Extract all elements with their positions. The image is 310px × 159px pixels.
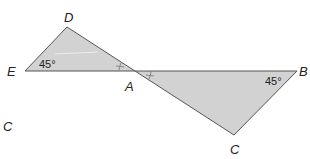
label-a: A xyxy=(124,79,134,94)
angle-b-label: 45° xyxy=(265,75,282,87)
geometry-diagram: D E A B C C 45° 45° xyxy=(0,0,310,159)
label-d: D xyxy=(64,10,73,25)
label-b: B xyxy=(299,64,308,79)
label-stray-c: C xyxy=(3,119,13,134)
label-e: E xyxy=(7,64,16,79)
angle-e-label: 45° xyxy=(39,58,56,70)
diagram-svg: D E A B C C 45° 45° xyxy=(0,0,310,159)
label-c: C xyxy=(230,142,240,157)
